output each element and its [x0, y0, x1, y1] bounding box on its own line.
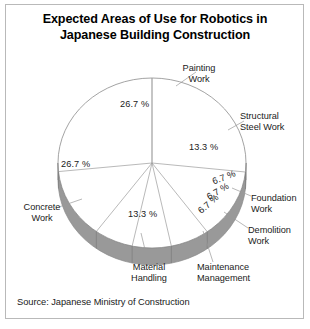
slice-label-structural-steel: Structural Steel Work	[240, 111, 304, 132]
figure-panel: Expected Areas of Use for Robotics in Ja…	[0, 0, 310, 329]
source-note: Source: Japanese Ministry of Constructio…	[17, 297, 190, 307]
slice-value-painting: 26.7 %	[120, 99, 149, 109]
slice-label-maintenance: Maintenance Management	[197, 262, 277, 283]
slice-label-material-handling: Material Handling	[118, 262, 180, 283]
slice-value-concrete: 26.7 %	[61, 159, 90, 169]
pie-3d-body	[58, 78, 246, 265]
slice-label-foundation: Foundation Work	[251, 193, 309, 214]
slice-label-concrete: Concrete Work	[13, 202, 71, 223]
slice-value-structural-steel: 13.3 %	[189, 142, 218, 152]
slice-label-demolition: Demolition Work	[248, 225, 306, 246]
slice-label-painting: Painting Work	[171, 63, 227, 84]
slice-value-material-handling: 13.3 %	[128, 209, 157, 219]
